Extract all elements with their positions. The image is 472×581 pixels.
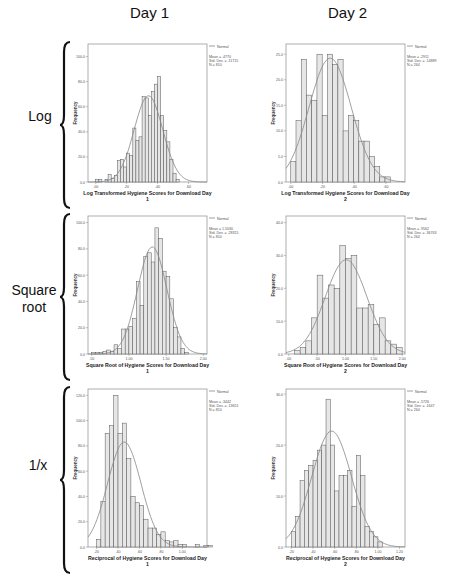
x-axis-label-line2: 1	[146, 561, 149, 567]
y-axis-label: Frequency	[73, 456, 78, 480]
histogram-bar	[330, 445, 334, 547]
histogram-log-day-1: 0.020.040.060.080.0100.0.00.20.40.60Freq…	[72, 40, 272, 210]
histogram-bar	[343, 131, 348, 182]
x-tick-label: .00	[93, 185, 98, 189]
y-tick-label: 0.0	[278, 546, 283, 550]
histogram-bar	[173, 173, 176, 182]
y-tick-label: 20.0	[78, 326, 85, 330]
histogram-bar	[133, 319, 137, 354]
legend-normal-label: Normal	[415, 390, 427, 394]
stats-line: N = 264	[407, 235, 420, 239]
y-tick-label: 40.0	[78, 130, 85, 134]
y-tick-label: 25.0	[276, 53, 283, 57]
histogram-square-root-day-2: 0.010.020.030.040.0.00.501.001.502.00Fre…	[270, 212, 470, 382]
histogram-bar	[170, 159, 173, 182]
y-tick-label: 40.0	[276, 221, 283, 225]
histogram-bar	[122, 423, 126, 547]
x-tick-label: .60	[383, 185, 388, 189]
histogram-bar	[152, 528, 156, 547]
histogram-bar	[343, 476, 347, 547]
x-tick-label: .40	[311, 550, 316, 554]
histogram-bar	[313, 460, 317, 547]
x-tick-label: .80	[158, 550, 163, 554]
histogram--x-day-2: 0.010.020.030.0.20.40.60.801.001.20Frequ…	[270, 385, 470, 575]
histogram-bar	[118, 433, 122, 547]
histogram-bar	[177, 337, 181, 354]
histogram-bar	[322, 445, 326, 547]
y-tick-label: 80.0	[78, 80, 85, 84]
y-tick-label: 0.0	[80, 181, 85, 185]
y-axis-label: Frequency	[271, 456, 276, 480]
histogram-bar	[334, 288, 340, 354]
stats-line: N = 264	[407, 63, 420, 67]
histogram-bar	[291, 532, 295, 547]
histogram-bar	[145, 98, 148, 182]
x-axis-label-line2: 2	[344, 368, 347, 374]
x-axis-label-line2: 2	[344, 196, 347, 202]
y-tick-label: 100.0	[76, 55, 85, 59]
y-tick-label: 40.0	[78, 300, 85, 304]
histogram-bar	[140, 305, 144, 354]
x-tick-label: .50	[315, 357, 320, 361]
y-tick-label: 80.0	[78, 247, 85, 251]
x-tick-label: .40	[352, 185, 357, 189]
x-axis-label-line2: 1	[146, 196, 149, 202]
histogram-bar	[309, 465, 313, 547]
histogram-bar	[317, 450, 321, 547]
histogram-bar	[148, 116, 151, 182]
histogram-bar	[158, 77, 161, 182]
histogram-log-day-2: 0.05.010.015.020.025.0.00.20.40.60Freque…	[270, 40, 470, 210]
x-axis-label-line2: 1	[146, 368, 149, 374]
histogram-bar	[312, 318, 318, 354]
histogram-bar	[326, 399, 330, 547]
y-axis-label: Frequency	[271, 101, 276, 125]
histogram-bar	[133, 128, 136, 182]
histogram-bar	[176, 179, 179, 182]
histogram-bar	[312, 100, 317, 182]
histogram-bar	[142, 97, 145, 182]
histogram-bar	[300, 481, 304, 547]
histogram-bar	[322, 116, 327, 182]
y-tick-label: 20.0	[276, 444, 283, 448]
histogram-bar	[130, 156, 133, 182]
histogram-bar	[129, 326, 133, 354]
histogram-bar	[301, 59, 306, 182]
histogram-square-root-day-1: 0.020.040.060.080.0100.0.501.001.502.00F…	[72, 212, 272, 382]
histogram-bar	[139, 505, 143, 547]
histogram-bar	[361, 476, 365, 547]
histogram-bar	[131, 496, 135, 547]
histogram-bar	[101, 501, 105, 547]
y-tick-label: 20.0	[276, 78, 283, 82]
histogram-bar	[109, 426, 113, 547]
histogram-bar	[127, 459, 131, 547]
y-tick-label: 20.0	[78, 155, 85, 159]
histogram-bar	[327, 54, 332, 182]
histogram-bar	[144, 257, 148, 354]
histogram-bar	[118, 349, 122, 354]
x-tick-label: .20	[94, 550, 99, 554]
x-axis-label-line2: 2	[344, 561, 347, 567]
histogram-bar	[155, 228, 159, 354]
y-tick-label: 30.0	[276, 254, 283, 258]
stats-line: N = 264	[407, 408, 420, 412]
histogram-bar	[348, 471, 352, 547]
y-tick-label: 15.0	[276, 104, 283, 108]
x-tick-label: 2.00	[200, 357, 207, 361]
histogram-bar	[108, 174, 111, 182]
histogram-bar	[161, 116, 164, 182]
x-tick-label: 1.20	[396, 550, 403, 554]
x-tick-label: .80	[354, 550, 359, 554]
x-tick-label: .20	[124, 185, 129, 189]
stats-line: N = 810	[209, 235, 222, 239]
y-tick-label: 100.0	[76, 419, 85, 423]
x-tick-label: .60	[137, 550, 142, 554]
histogram-bar	[346, 259, 352, 354]
stats-line: N = 810	[209, 408, 222, 412]
y-tick-label: 100.0	[76, 221, 85, 225]
histogram-bar	[159, 238, 163, 354]
histogram-bar	[359, 141, 364, 182]
histogram-bar	[306, 341, 312, 354]
x-tick-label: 1.00	[374, 550, 381, 554]
y-tick-label: 0.0	[80, 353, 85, 357]
y-tick-label: 10.0	[276, 495, 283, 499]
